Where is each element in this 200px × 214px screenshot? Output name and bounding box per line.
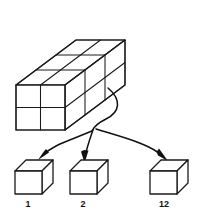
arrow-head-cube-12 [157,149,169,162]
cube-1: 1 [15,160,53,209]
unit-cube-prism [16,40,125,130]
cube-12-front-face [150,171,177,194]
cube-2: 2 [70,160,108,209]
figure-container: 1 2 12 [0,0,200,214]
cube-1-label: 1 [25,199,30,209]
cube-12: 12 [150,160,188,209]
cube-2-label: 2 [80,199,85,209]
cube-2-front-face [70,171,97,194]
cube-12-label: 12 [159,199,169,209]
arrow-head-cube-1 [38,149,49,160]
cube-decomposition-diagram: 1 2 12 [0,0,200,214]
arrow-to-cube-12 [96,129,163,156]
cube-1-front-face [15,171,42,194]
